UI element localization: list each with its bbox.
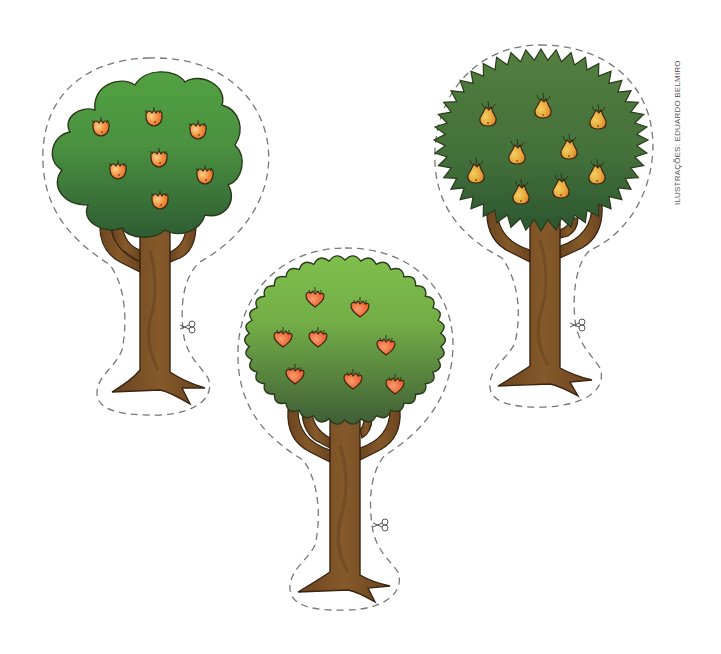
cutout-trees-illustration <box>0 0 721 654</box>
pear-tree <box>434 45 653 407</box>
apple-tree <box>43 58 269 415</box>
illustration-credit: ILUSTRAÇÕES: EDUARDO BELMIRO <box>673 60 682 205</box>
canopy <box>52 72 242 237</box>
scissors-icon <box>373 519 388 531</box>
scissors-icon <box>570 319 585 331</box>
heart-fruit-tree <box>238 248 453 610</box>
canopy <box>434 49 648 231</box>
